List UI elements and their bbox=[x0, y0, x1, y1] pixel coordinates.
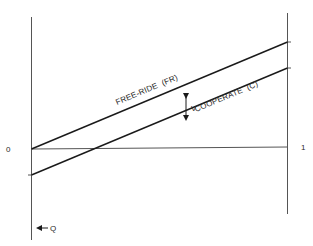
diagram: FREE-RIDE (FR) COOPERATE (C) V 0 1 Q bbox=[0, 0, 313, 246]
zero-line bbox=[32, 147, 288, 149]
axis-label-zero: 0 bbox=[6, 145, 11, 154]
free-ride-label: FREE-RIDE (FR) bbox=[114, 73, 179, 107]
free-ride-line bbox=[32, 42, 288, 149]
cooperate-label: COOPERATE (C) bbox=[193, 79, 259, 114]
v-label: V bbox=[191, 104, 197, 113]
axis-label-one: 1 bbox=[301, 143, 306, 152]
q-label: Q bbox=[50, 224, 56, 233]
